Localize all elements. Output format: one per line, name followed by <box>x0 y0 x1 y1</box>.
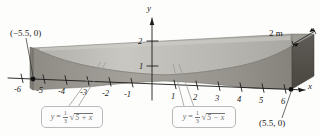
right-equation-expression: y = 1 3 √ 5 − x <box>183 110 226 124</box>
right-endpoint-label: (5.5, 0) <box>259 118 285 128</box>
left-eq-radicand: 5 + x <box>74 113 93 122</box>
x-axis-arrow <box>298 88 305 93</box>
x-tick-label--3: -3 <box>80 87 87 97</box>
x-tick-label--4: -4 <box>58 86 65 96</box>
x-tick-label-1: 1 <box>171 91 175 101</box>
x-tick-label-6: 6 <box>281 96 285 106</box>
right-eq-radical: √ 5 − x <box>201 113 225 122</box>
left-equation-box: y = 1 3 √ 5 + x <box>41 106 103 128</box>
right-eq-coefficient: 1 3 <box>195 110 200 124</box>
y-axis-arrow <box>150 18 155 25</box>
y-tick-label-1: 1 <box>139 61 143 71</box>
right-eq-radicand: 5 − x <box>206 113 225 122</box>
x-tick-label-3: 3 <box>215 93 219 103</box>
right-endpoint-dot <box>289 87 294 92</box>
left-eq-radical: √ 5 + x <box>69 113 93 122</box>
left-eq-y: y <box>51 113 55 121</box>
right-eq-equals: = <box>188 113 193 121</box>
dimension-label-2m: 2 m <box>269 28 283 38</box>
left-eq-equals: = <box>56 113 61 121</box>
right-eq-y: y <box>183 113 187 121</box>
right-eq-coef-den: 3 <box>195 117 200 125</box>
x-tick-label--5: -5 <box>36 85 43 95</box>
y-tick-label-2: 2 <box>138 36 142 46</box>
beam-solid <box>30 34 314 90</box>
left-eq-coefficient: 1 3 <box>63 110 68 124</box>
left-endpoint-label: (−5.5, 0) <box>10 28 41 38</box>
beam-figure: y x -6 -5 -4 -3 -2 -1 1 2 3 4 5 6 1 2 (−… <box>0 0 320 137</box>
left-endpoint-dot <box>31 77 36 82</box>
x-tick-label-4: 4 <box>237 94 241 104</box>
x-axis-label: x <box>308 81 312 91</box>
x-tick-label--1: -1 <box>124 89 131 99</box>
x-tick-label-5: 5 <box>259 95 263 105</box>
right-equation-box: y = 1 3 √ 5 − x <box>172 106 236 128</box>
x-tick-label-2: 2 <box>193 92 197 102</box>
y-axis-label: y <box>147 3 151 13</box>
x-tick-label--6: -6 <box>14 84 21 94</box>
left-equation-expression: y = 1 3 √ 5 + x <box>51 110 94 124</box>
left-eq-coef-den: 3 <box>63 117 68 125</box>
x-tick-label--2: -2 <box>102 88 109 98</box>
